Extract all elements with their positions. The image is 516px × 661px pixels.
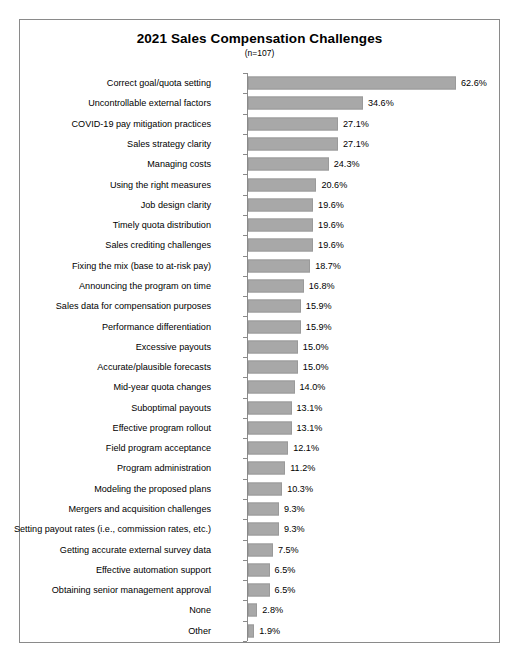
category-label: COVID-19 pay mitigation practices xyxy=(72,118,212,129)
category-label: Suboptimal payouts xyxy=(131,402,211,413)
category-label: Performance differentiation xyxy=(102,321,211,332)
axis-tick xyxy=(243,398,247,399)
bar-and-value: 1.9% xyxy=(248,624,280,637)
value-label: 24.3% xyxy=(334,159,360,170)
bar-and-value: 15.9% xyxy=(248,320,332,333)
bar-row: Fixing the mix (base to at-risk pay)18.7… xyxy=(20,256,499,276)
bar xyxy=(248,198,313,211)
bar xyxy=(248,117,338,130)
bar-and-value: 13.1% xyxy=(248,401,322,414)
bar-row: Announcing the program on time16.8% xyxy=(20,276,499,296)
category-label: Effective automation support xyxy=(96,564,211,575)
bar-row: Program administration11.2% xyxy=(20,458,499,478)
bar xyxy=(248,340,298,353)
axis-tick xyxy=(243,438,247,439)
bar-row: Obtaining senior management approval6.5% xyxy=(20,580,499,600)
value-label: 2.8% xyxy=(262,605,283,616)
bar-and-value: 15.0% xyxy=(248,361,329,374)
bar-row: Getting accurate external survey data7.5… xyxy=(20,539,499,559)
bar-row: Uncontrollable external factors34.6% xyxy=(20,93,499,113)
bar-row: Correct goal/quota setting62.6% xyxy=(20,73,499,93)
chart-subtitle: (n=107) xyxy=(20,48,499,59)
category-label: Sales strategy clarity xyxy=(127,138,211,149)
axis-tick xyxy=(243,499,247,500)
axis-tick xyxy=(243,154,247,155)
value-label: 15.0% xyxy=(303,341,329,352)
bar-and-value: 19.6% xyxy=(248,239,344,252)
bar-row: Timely quota distribution19.6% xyxy=(20,215,499,235)
bar-row: Other1.9% xyxy=(20,621,499,641)
bar xyxy=(248,624,254,637)
bar-row: Job design clarity19.6% xyxy=(20,195,499,215)
bar-and-value: 9.3% xyxy=(248,503,305,516)
bar-and-value: 7.5% xyxy=(248,543,299,556)
value-label: 15.0% xyxy=(303,362,329,373)
value-label: 11.2% xyxy=(290,463,315,474)
bar-and-value: 27.1% xyxy=(248,137,369,150)
bar xyxy=(248,77,456,90)
category-label: Program administration xyxy=(117,463,211,474)
bar-row: Field program acceptance12.1% xyxy=(20,438,499,458)
bar-and-value: 9.3% xyxy=(248,523,305,536)
bar xyxy=(248,279,304,292)
bar xyxy=(248,97,363,110)
bar xyxy=(248,584,270,597)
value-label: 19.6% xyxy=(318,220,344,231)
value-label: 12.1% xyxy=(293,443,319,454)
bar-and-value: 6.5% xyxy=(248,563,295,576)
bar-and-value: 62.6% xyxy=(248,77,487,90)
bar xyxy=(248,381,295,394)
value-label: 6.5% xyxy=(275,585,296,596)
category-label: Excessive payouts xyxy=(136,341,211,352)
axis-tick xyxy=(243,458,247,459)
category-label: Effective program rollout xyxy=(113,422,211,433)
category-label: Setting payout rates (i.e., commission r… xyxy=(14,524,211,535)
category-label: None xyxy=(189,605,211,616)
value-label: 19.6% xyxy=(318,199,344,210)
bar xyxy=(248,259,310,272)
bar xyxy=(248,421,292,434)
value-label: 27.1% xyxy=(343,118,369,129)
bar xyxy=(248,219,313,232)
bar-row: Effective program rollout13.1% xyxy=(20,418,499,438)
category-label: Mergers and acquisition challenges xyxy=(68,504,211,515)
bar-row: Sales strategy clarity27.1% xyxy=(20,134,499,154)
bar xyxy=(248,543,273,556)
bar-and-value: 2.8% xyxy=(248,604,283,617)
value-label: 1.9% xyxy=(259,625,280,636)
bar-and-value: 10.3% xyxy=(248,482,313,495)
bar-and-value: 13.1% xyxy=(248,421,322,434)
plot-area: Correct goal/quota setting62.6%Uncontrol… xyxy=(20,73,499,641)
bar-row: Mid-year quota changes14.0% xyxy=(20,377,499,397)
category-label: Mid-year quota changes xyxy=(113,382,211,393)
bar-row: Accurate/plausible forecasts15.0% xyxy=(20,357,499,377)
value-label: 16.8% xyxy=(309,280,335,291)
category-label: Other xyxy=(188,625,211,636)
bar xyxy=(248,361,298,374)
axis-tick xyxy=(243,540,247,541)
category-label: Managing costs xyxy=(147,159,211,170)
category-label: Job design clarity xyxy=(141,199,211,210)
bar-series: Correct goal/quota setting62.6%Uncontrol… xyxy=(20,73,499,641)
axis-tick xyxy=(243,418,247,419)
bar xyxy=(248,462,285,475)
bar xyxy=(248,563,270,576)
category-label: Modeling the proposed plans xyxy=(94,483,211,494)
bar-and-value: 16.8% xyxy=(248,279,335,292)
category-label: Timely quota distribution xyxy=(113,220,211,231)
bar-and-value: 15.0% xyxy=(248,340,329,353)
value-label: 14.0% xyxy=(300,382,326,393)
value-label: 20.6% xyxy=(321,179,347,190)
bar xyxy=(248,178,316,191)
bar-row: Excessive payouts15.0% xyxy=(20,337,499,357)
bar-row: Modeling the proposed plans10.3% xyxy=(20,479,499,499)
bar-and-value: 19.6% xyxy=(248,198,344,211)
bar-and-value: 11.2% xyxy=(248,462,315,475)
category-label: Sales data for compensation purposes xyxy=(56,301,211,312)
bar-and-value: 14.0% xyxy=(248,381,325,394)
bar-and-value: 6.5% xyxy=(248,584,295,597)
axis-tick xyxy=(243,357,247,358)
axis-tick xyxy=(243,479,247,480)
axis-tick xyxy=(243,600,247,601)
category-label: Obtaining senior management approval xyxy=(52,585,211,596)
